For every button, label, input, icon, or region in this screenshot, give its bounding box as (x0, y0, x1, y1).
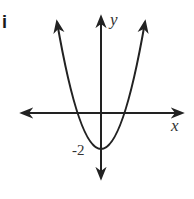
x-axis-label: x (170, 116, 179, 135)
y-intercept-label: -2 (72, 142, 85, 158)
y-axis-label: y (108, 10, 118, 29)
graph: y x -2 (0, 0, 194, 199)
